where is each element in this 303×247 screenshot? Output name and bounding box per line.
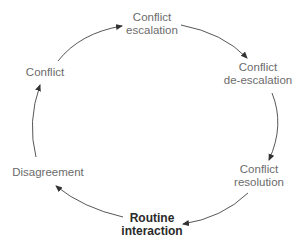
arrow-routine-to-disagreement: [56, 186, 123, 217]
cycle-diagram: Conflict escalation Conflict de-escalati…: [0, 0, 303, 247]
node-conflict-de-escalation: Conflict de-escalation: [224, 61, 292, 87]
arrow-conflict-to-escalation: [58, 26, 122, 61]
node-label-line: escalation: [126, 24, 178, 37]
node-label-line: interaction: [121, 225, 182, 238]
arrow-resolution-to-routine: [183, 193, 248, 224]
arrow-escalation-to-de-escalation: [181, 25, 247, 58]
arrow-disagreement-to-conflict: [32, 85, 40, 157]
node-disagreement: Disagreement: [12, 166, 84, 179]
node-label-line: Conflict: [224, 61, 292, 74]
arrows-layer: [0, 0, 303, 247]
node-conflict-escalation: Conflict escalation: [126, 11, 178, 37]
node-conflict: Conflict: [26, 66, 64, 79]
node-conflict-resolution: Conflict resolution: [234, 163, 284, 189]
node-label-line: Conflict: [26, 66, 64, 79]
node-label-line: Conflict: [126, 11, 178, 24]
node-routine-interaction: Routine interaction: [121, 212, 182, 238]
node-label-line: de-escalation: [224, 74, 292, 87]
node-label-line: Conflict: [234, 163, 284, 176]
node-label-line: Disagreement: [12, 166, 84, 179]
node-label-line: resolution: [234, 176, 284, 189]
arrow-de-escalation-to-resolution: [269, 93, 278, 160]
